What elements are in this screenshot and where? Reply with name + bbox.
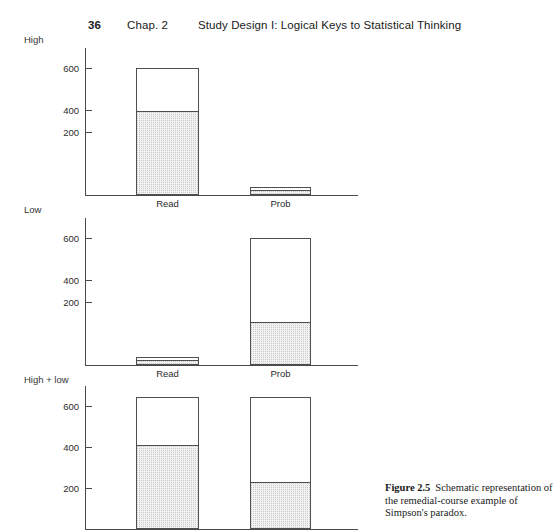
chart-high-x-axis <box>85 195 358 196</box>
chart-low-x-axis <box>85 365 358 366</box>
chart-high-y-axis <box>85 48 86 196</box>
chart-sum-ytick-200: 200 <box>85 488 92 489</box>
chart-low-ytick-600: 600 <box>85 238 92 239</box>
bar-low-prob-fill <box>251 322 310 364</box>
chart-sum-ytick-label-600: 600 <box>63 400 79 411</box>
bar-sum-prob: Prob <box>250 397 311 529</box>
chart-high-plus-low-x-axis <box>85 529 358 530</box>
chart-high-ytick-label-200: 200 <box>63 126 79 137</box>
figure-caption: Figure 2.5Schematic representation of th… <box>385 482 553 520</box>
bar-low-read-fill <box>137 360 198 364</box>
chart-low-y-axis <box>85 218 86 366</box>
chart-sum-ytick-600: 600 <box>85 406 92 407</box>
chart-high-ytick-label-400: 400 <box>63 105 79 116</box>
chart-high-plot-area: 200 400 600 Read Prob <box>85 48 358 196</box>
chart-low-ytick-200: 200 <box>85 302 92 303</box>
chart-sum-ytick-label-200: 200 <box>63 482 79 493</box>
chapter-label: Chap. 2 <box>127 19 168 31</box>
chart-sum-ytick-400: 400 <box>85 447 92 448</box>
chart-low: Low 200 400 600 Read Prob <box>0 204 380 380</box>
chart-low-ytick-400: 400 <box>85 280 92 281</box>
chart-high: High 200 400 600 Read Prob <box>0 34 380 210</box>
chart-low-title: Low <box>24 204 41 215</box>
chart-high-ytick-600: 600 <box>85 68 92 69</box>
chart-high-ytick-label-600: 600 <box>63 63 79 74</box>
chapter-title: Study Design I: Logical Keys to Statisti… <box>198 19 461 31</box>
chart-high-plus-low-plot-area: 200 400 600 Read Prob <box>85 386 358 530</box>
bar-high-prob: Prob <box>250 187 311 195</box>
bar-high-prob-fill <box>251 190 310 194</box>
chart-high-ytick-400: 400 <box>85 110 92 111</box>
running-head: 36Chap. 2Study Design I: Logical Keys to… <box>88 19 461 31</box>
bar-sum-read: Read <box>136 397 199 529</box>
chart-high-plus-low: High + low 200 400 600 Read Prob <box>0 374 380 532</box>
bar-low-prob: Prob <box>250 238 311 365</box>
bar-low-read: Read <box>136 357 199 365</box>
chart-low-ytick-label-200: 200 <box>63 296 79 307</box>
bar-sum-read-fill <box>137 445 198 528</box>
chart-high-ytick-200: 200 <box>85 132 92 133</box>
bar-sum-prob-fill <box>251 482 310 528</box>
bar-high-read: Read <box>136 68 199 195</box>
chart-high-plus-low-y-axis <box>85 386 86 530</box>
bar-high-read-fill <box>137 111 198 194</box>
chart-sum-ytick-label-400: 400 <box>63 441 79 452</box>
page-number: 36 <box>88 19 101 31</box>
chart-low-ytick-label-400: 400 <box>63 275 79 286</box>
chart-low-ytick-label-600: 600 <box>63 233 79 244</box>
figure-caption-label: Figure 2.5 <box>385 482 430 493</box>
chart-high-plus-low-title: High + low <box>24 374 69 385</box>
chart-low-plot-area: 200 400 600 Read Prob <box>85 218 358 366</box>
chart-high-title: High <box>24 34 44 45</box>
